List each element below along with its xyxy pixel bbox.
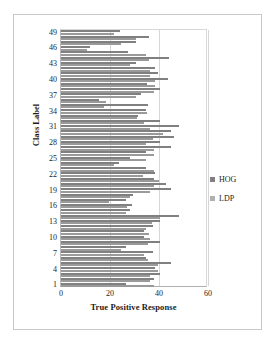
bar-group [61, 188, 206, 193]
bar-group [61, 256, 206, 261]
y-tick-label-1: 1 [27, 281, 57, 289]
bar-group [61, 46, 206, 51]
bar-group [61, 277, 206, 282]
y-tick-label-16: 16 [27, 202, 57, 210]
y-tick-label-40: 40 [27, 76, 57, 84]
bar-ldp [61, 180, 159, 182]
y-tick-label-22: 22 [27, 171, 57, 179]
bar-ldp [61, 122, 144, 124]
bar-group [61, 120, 206, 125]
bar-ldp [61, 270, 158, 272]
bar-ldp [61, 54, 146, 56]
bar-ldp [61, 112, 147, 114]
bar-group [61, 83, 206, 88]
bar-group [61, 41, 206, 46]
bar-ldp [61, 185, 154, 187]
bar-ldp [61, 96, 136, 98]
bar-group [61, 267, 206, 272]
bar-ldp [61, 243, 148, 245]
bar-group [61, 251, 206, 256]
bar-ldp [61, 170, 154, 172]
bar-group [61, 51, 206, 56]
bar-group [61, 109, 206, 114]
x-tick-label-40: 40 [155, 290, 163, 298]
bar-ldp [61, 254, 144, 256]
y-tick-label-10: 10 [27, 234, 57, 242]
bar-ldp [61, 133, 163, 135]
bar-ldp [61, 264, 158, 266]
y-tick-label-49: 49 [27, 29, 57, 37]
bar-ldp [61, 143, 146, 145]
bar-ldp [61, 249, 121, 251]
y-tick-label-19: 19 [27, 187, 57, 195]
bar-group [61, 167, 206, 172]
x-tick-label-60: 60 [204, 290, 212, 298]
bar-ldp [61, 64, 130, 66]
bar-ldp [61, 138, 153, 140]
chart-legend: HOG LDP [210, 175, 236, 213]
bar-ldp [61, 149, 154, 151]
legend-label-ldp: LDP [219, 194, 234, 203]
bar-group [61, 114, 206, 119]
bar-group [61, 214, 206, 219]
bar-ldp [61, 238, 150, 240]
bar-ldp [61, 85, 155, 87]
legend-swatch-ldp [210, 196, 215, 201]
bar-group [61, 135, 206, 140]
bar-ldp [61, 70, 150, 72]
bar-group [61, 130, 206, 135]
bar-ldp [61, 175, 143, 177]
bar-ldp [61, 164, 114, 166]
y-tick-label-46: 46 [27, 44, 57, 52]
bar-group [61, 230, 206, 235]
bar-ldp [61, 259, 148, 261]
bar-group [61, 72, 206, 77]
bar-ldp [61, 201, 109, 203]
bar-group [61, 77, 206, 82]
bar-ldp [61, 154, 154, 156]
bar-ldp [61, 206, 127, 208]
bar-ldp [61, 33, 114, 35]
bar-ldp [61, 101, 106, 103]
bar-ldp [61, 222, 152, 224]
y-tick-label-25: 25 [27, 155, 57, 163]
bar-ldp [61, 128, 150, 130]
bar-ldp [61, 75, 150, 77]
bar-group [61, 56, 206, 61]
bar-group [61, 204, 206, 209]
bar-group [61, 241, 206, 246]
bar-group [61, 141, 206, 146]
bar-group [61, 193, 206, 198]
bar-ldp [61, 280, 150, 282]
bar-group [61, 283, 206, 288]
legend-item-ldp: LDP [210, 194, 236, 203]
bar-ldp [61, 91, 154, 93]
bar-group [61, 98, 206, 103]
bar-ldp [61, 285, 154, 287]
bar-group [61, 35, 206, 40]
bar-group [61, 156, 206, 161]
bar-ldp [61, 106, 104, 108]
y-tick-label-43: 43 [27, 60, 57, 68]
bar-group [61, 172, 206, 177]
bar-group [61, 272, 206, 277]
gridline-x-60 [208, 30, 209, 286]
bar-ldp [61, 196, 130, 198]
bar-group [61, 62, 206, 67]
y-tick-label-13: 13 [27, 218, 57, 226]
legend-label-hog: HOG [219, 175, 236, 184]
bar-ldp [61, 212, 126, 214]
bar-ldp [61, 43, 121, 45]
bar-ldp [61, 191, 150, 193]
bar-ldp [61, 159, 146, 161]
bar-group [61, 209, 206, 214]
bar-ldp [61, 49, 87, 51]
bar-group [61, 177, 206, 182]
bar-ldp [61, 228, 146, 230]
bar-ldp [61, 217, 160, 219]
bar-ldp [61, 59, 149, 61]
y-tick-label-7: 7 [27, 250, 57, 258]
bar-ldp [61, 117, 137, 119]
bar-group [61, 88, 206, 93]
x-tick-label-20: 20 [106, 290, 114, 298]
